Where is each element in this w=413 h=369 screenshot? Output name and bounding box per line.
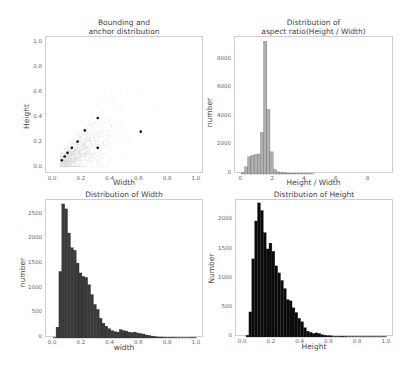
y-tick-label: 1000 [205,274,232,280]
histogram-bar [321,335,324,337]
histogram-bar [278,273,281,337]
histogram-bar [326,336,329,337]
x-tick-label: 0.6 [322,338,334,344]
x-tick-label: 0.4 [294,338,306,344]
x-tick-label: 0.0 [236,338,248,344]
panel-height: Distribution of Height Number Height 0.0… [0,0,413,369]
histogram-bar [306,331,309,337]
chart-title-height: Distribution of Height [235,190,393,199]
histogram-bar [266,249,269,337]
histogram-bar [289,301,292,337]
histogram-bar [249,312,252,337]
histogram-bar [292,308,295,337]
histogram-bar [269,243,272,337]
histogram-bar [255,221,258,337]
histogram-bar [281,280,284,337]
histogram-bar [260,210,263,337]
histogram-bar [332,336,335,337]
height-histogram [236,200,394,337]
y-tick-label: 2000 [205,215,232,221]
histogram-bar [309,332,312,337]
x-axis-label: Height [235,342,393,351]
y-tick-label: 500 [205,303,232,309]
histogram-bar [272,251,275,337]
histogram-bar [335,336,338,337]
x-tick-label: 0.2 [265,338,277,344]
histogram-bar [341,336,344,337]
histogram-bar [312,334,315,337]
histogram-bar [283,289,286,337]
histogram-bar [246,335,249,337]
histogram-bar [304,328,307,337]
histogram-bar [298,318,301,337]
histogram-bar [344,336,347,337]
histogram-bar [258,203,261,337]
y-tick-label: 1500 [205,245,232,251]
x-tick-label: 0.8 [351,338,363,344]
histogram-bar [301,322,304,337]
histogram-bar [315,333,318,337]
histogram-bar [275,266,278,337]
histogram-bar [329,336,332,337]
y-tick-label: 0 [205,332,232,338]
axes-height [235,199,393,336]
histogram-bar [252,259,255,337]
histogram-bar [338,336,341,337]
x-tick-label: 1.0 [380,338,392,344]
histogram-bar [286,300,289,337]
histogram-bar [263,233,266,337]
histogram-bar [318,334,321,337]
histogram-bar [295,313,298,337]
histogram-bar [324,335,327,337]
